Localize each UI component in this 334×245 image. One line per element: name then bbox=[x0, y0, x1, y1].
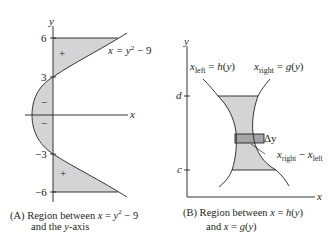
tick-label-c: c bbox=[177, 163, 182, 175]
tick-label-3: 3 bbox=[41, 71, 47, 83]
left-curve-label: xleft = h(y) bbox=[189, 60, 235, 75]
caption-b-prefix: (B) Region between bbox=[183, 207, 270, 218]
tick-label-d: d bbox=[176, 89, 182, 101]
caption-a-math: x bbox=[98, 210, 103, 221]
left-curve-h bbox=[203, 79, 236, 187]
sign-minus-upper: − bbox=[41, 96, 47, 108]
tick-label-neg3: −3 bbox=[35, 148, 47, 160]
width-label: xright − xleft bbox=[276, 148, 324, 163]
panel-b: y x d c xleft = h(y) xright = g(y) Δy xr… bbox=[176, 35, 324, 202]
sign-minus-lower: − bbox=[41, 117, 47, 129]
x-axis-label-b: x bbox=[316, 190, 322, 202]
y-axis-label-a: y bbox=[48, 15, 54, 27]
x-axis-label-a: x bbox=[129, 108, 135, 120]
delta-y-label: Δy bbox=[264, 132, 277, 144]
tick-label-6: 6 bbox=[41, 32, 47, 44]
right-curve-label: xright = g(y) bbox=[253, 60, 304, 75]
region-a-middle-negative bbox=[32, 77, 53, 154]
curve-equation-label: x = y2 − 9 bbox=[107, 44, 152, 56]
caption-a-line2: and the y-axis bbox=[31, 220, 89, 233]
caption-b-line2: and x = g(y) bbox=[206, 220, 257, 233]
caption-a-prefix: (A) Region between bbox=[10, 210, 98, 221]
sign-plus-bottom: + bbox=[60, 167, 66, 179]
tick-label-neg6: −6 bbox=[35, 186, 47, 198]
y-axis-label-b: y bbox=[183, 35, 189, 47]
sign-plus-top: + bbox=[59, 47, 65, 59]
caption-b: (B) Region between x = h(y) bbox=[183, 206, 303, 219]
delta-y-strip bbox=[235, 134, 264, 143]
panel-a: y x 6 3 −3 −6 + − − + x = y2 − 9 bbox=[25, 15, 152, 202]
